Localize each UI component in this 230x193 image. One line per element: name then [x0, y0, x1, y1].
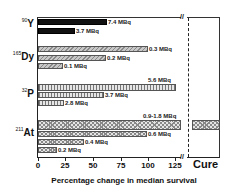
bar-label: 3.7 MBq: [76, 28, 99, 34]
bar-211at-0.2mbq: [38, 147, 57, 153]
x-tick-label-0: 0: [36, 161, 40, 170]
category-label-32p: 32P: [22, 87, 34, 99]
category-label-211at: 211At: [15, 126, 34, 138]
bar-label: 7.4 MBq: [108, 19, 131, 25]
bar-32p-3.7mbq: [38, 92, 104, 98]
bar-211at-0.6mbq: [38, 131, 147, 137]
x-tick-label-cure: Cure: [193, 158, 218, 170]
bar-90y-3.7mbq: [38, 28, 75, 34]
bar-label: 0.6 MBq: [148, 131, 171, 137]
cure-divider-line: [188, 18, 189, 157]
bar-32p-5.6mbq: [38, 84, 176, 91]
x-tick-label-25: 25: [61, 161, 70, 170]
bar-label: 3.7 MBq: [105, 92, 128, 98]
bottom-axis-break-mark: //: [180, 153, 184, 160]
bar-32p-2.8mbq: [38, 100, 64, 106]
bar-label: 0.9-1.8 MBq: [143, 113, 176, 119]
bar-label: 0.2 MBq: [58, 147, 81, 153]
bar-165dy-0.1mbq: [38, 63, 63, 69]
bar-label: 0.4 MBq: [85, 139, 108, 145]
bar-label: 2.8 MBq: [65, 100, 88, 106]
bar-211at-0.4mbq: [38, 139, 84, 145]
bar-label: 0.1 MBq: [64, 63, 87, 69]
category-label-90y: 90Y: [22, 17, 34, 29]
x-tick-label-75: 75: [117, 161, 126, 170]
bar-label: 5.6 MBq: [148, 77, 171, 83]
x-tick-label-50: 50: [89, 161, 98, 170]
x-tick-label-125: 125: [168, 161, 181, 170]
top-axis-break-mark: //: [180, 13, 184, 20]
bar-90y-7.4mbq: [38, 19, 107, 25]
x-axis-title: Percentage change in median survival: [0, 176, 230, 185]
bar-165dy-0.2mbq: [38, 55, 106, 61]
bar-label: 0.3 MBq: [149, 46, 172, 52]
bar-211at-0.9-1.8mbq-left: [38, 120, 181, 130]
x-tick-label-100: 100: [141, 161, 154, 170]
bar-211at-0.9-1.8mbq-cure: [192, 120, 220, 130]
category-label-165dy: 165Dy: [13, 50, 34, 62]
bar-label: 0.2 MBq: [107, 55, 130, 61]
bar-165dy-0.3mbq: [38, 46, 148, 52]
